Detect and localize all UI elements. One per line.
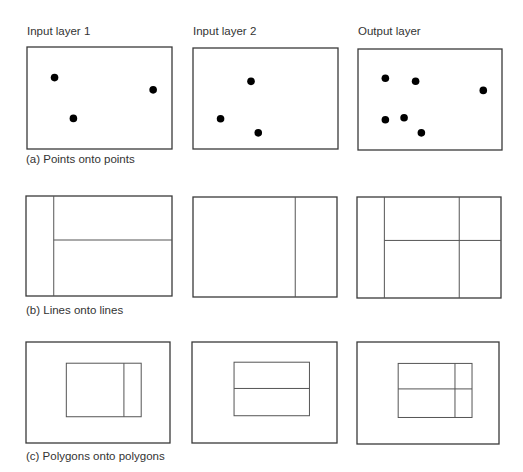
points-panel-output-layer: [358, 49, 502, 150]
lines-panel-input-layer-1: [26, 196, 172, 296]
points-panel-input-layer-1: [27, 47, 172, 149]
point-output-layer-0: [382, 74, 390, 82]
polygons-panel-input-layer-1: [26, 342, 170, 443]
point-input-layer-1-2: [70, 115, 78, 123]
point-output-layer-4: [400, 114, 408, 122]
point-input-layer-2-2: [254, 129, 262, 137]
point-output-layer-2: [479, 87, 487, 95]
point-input-layer-1-1: [149, 86, 157, 94]
overlay-diagram: [0, 0, 523, 472]
point-output-layer-1: [412, 78, 420, 86]
polygons-panel-output-layer: [357, 342, 499, 444]
point-input-layer-2-0: [247, 78, 255, 86]
point-input-layer-1-0: [51, 74, 59, 82]
point-output-layer-3: [382, 116, 390, 124]
inner-polygon-output-layer: [398, 363, 472, 417]
points-panel-input-layer-2: [193, 48, 338, 149]
point-output-layer-5: [418, 129, 426, 137]
point-input-layer-2-1: [217, 115, 225, 123]
lines-panel-input-layer-2: [193, 197, 337, 297]
inner-polygon-input-layer-2: [234, 362, 309, 416]
lines-panel-output-layer: [357, 197, 501, 298]
polygons-panel-input-layer-2: [192, 342, 337, 443]
inner-polygon-input-layer-1: [66, 363, 141, 417]
